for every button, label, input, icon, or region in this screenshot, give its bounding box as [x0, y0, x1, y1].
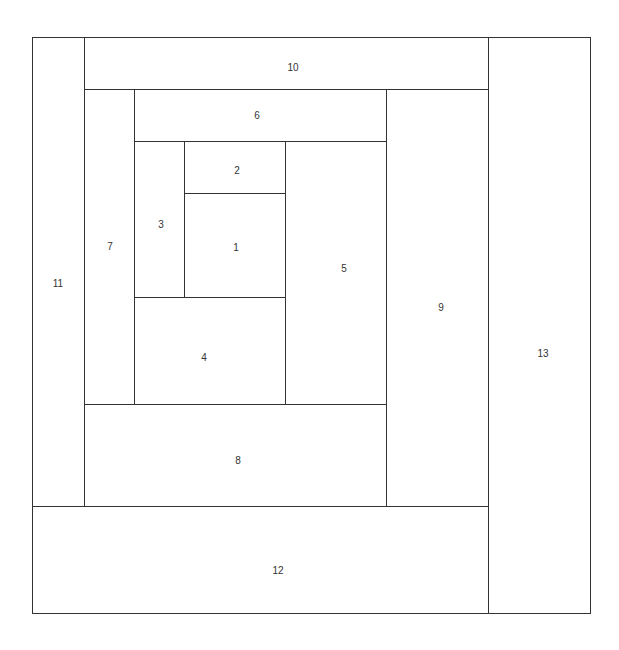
- piece-13: [488, 37, 591, 614]
- piece-label-4: 4: [201, 352, 207, 363]
- piece-4: [134, 297, 286, 405]
- piece-label-8: 8: [235, 455, 241, 466]
- piece-label-7: 7: [107, 241, 113, 252]
- piece-label-3: 3: [158, 219, 164, 230]
- piece-label-2: 2: [234, 165, 240, 176]
- piece-12: [32, 506, 489, 614]
- piece-11: [32, 37, 85, 507]
- piece-label-13: 13: [537, 348, 548, 359]
- piece-6: [134, 89, 387, 142]
- piece-label-10: 10: [287, 62, 298, 73]
- piece-label-12: 12: [272, 565, 283, 576]
- piece-label-9: 9: [438, 302, 444, 313]
- piece-5: [285, 141, 387, 405]
- piece-label-5: 5: [341, 263, 347, 274]
- piece-label-6: 6: [254, 110, 260, 121]
- piece-9: [386, 89, 489, 507]
- piece-label-11: 11: [53, 278, 63, 289]
- piece-label-1: 1: [233, 242, 239, 253]
